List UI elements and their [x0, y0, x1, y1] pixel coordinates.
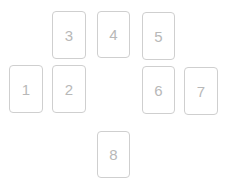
card-number: 7	[197, 83, 205, 100]
card-position-4: 4	[97, 11, 130, 58]
card-number: 2	[65, 81, 73, 98]
card-number: 3	[65, 27, 73, 44]
card-position-1: 1	[9, 65, 43, 113]
card-number: 6	[154, 82, 162, 99]
card-position-8: 8	[97, 131, 130, 178]
card-position-5: 5	[142, 12, 175, 60]
card-number: 4	[109, 26, 117, 43]
card-position-2: 2	[52, 65, 86, 113]
card-position-7: 7	[184, 67, 218, 115]
card-number: 5	[154, 28, 162, 45]
card-position-3: 3	[52, 11, 86, 59]
card-number: 1	[22, 81, 30, 98]
card-number: 8	[109, 146, 117, 163]
card-position-6: 6	[142, 66, 175, 114]
